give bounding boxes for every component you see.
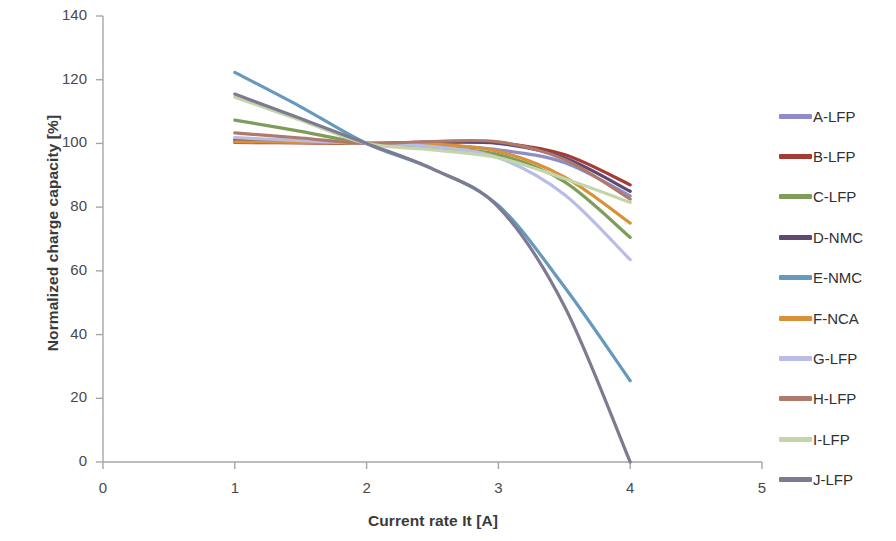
axis-lines [103, 16, 762, 462]
y-tick-label: 0 [47, 452, 87, 469]
legend-swatch-icon [779, 114, 812, 119]
tick-marks [96, 16, 762, 469]
legend-swatch-icon [779, 194, 812, 199]
legend-swatch-icon [779, 356, 812, 361]
legend-swatch-icon [779, 477, 812, 482]
legend-label: I-LFP [813, 431, 850, 448]
y-tick-label: 80 [47, 197, 87, 214]
legend-item-g-lfp[interactable]: G-LFP [779, 338, 896, 378]
legend-item-c-lfp[interactable]: C-LFP [779, 177, 896, 217]
x-tick-label: 5 [747, 479, 777, 496]
legend-swatch-icon [779, 316, 812, 321]
plot-area [0, 0, 896, 541]
series-line-f-nca [235, 142, 630, 223]
legend-label: G-LFP [813, 350, 857, 367]
chart-legend: A-LFPB-LFPC-LFPD-NMCE-NMCF-NCAG-LFPH-LFP… [779, 96, 896, 500]
legend-label: D-NMC [813, 229, 863, 246]
y-tick-label: 120 [47, 70, 87, 87]
x-tick-label: 0 [88, 479, 118, 496]
x-tick-label: 1 [220, 479, 250, 496]
x-tick-label: 3 [483, 479, 513, 496]
line-chart: Normalized charge capacity [%] Current r… [0, 0, 896, 541]
legend-label: A-LFP [813, 108, 856, 125]
legend-swatch-icon [779, 437, 812, 442]
y-tick-label: 100 [47, 133, 87, 150]
legend-item-h-lfp[interactable]: H-LFP [779, 379, 896, 419]
legend-label: C-LFP [813, 188, 856, 205]
y-tick-label: 20 [47, 388, 87, 405]
legend-swatch-icon [779, 154, 812, 159]
legend-item-b-lfp[interactable]: B-LFP [779, 136, 896, 176]
legend-label: B-LFP [813, 148, 856, 165]
y-tick-label: 60 [47, 261, 87, 278]
legend-item-d-nmc[interactable]: D-NMC [779, 217, 896, 257]
legend-label: H-LFP [813, 390, 856, 407]
legend-item-a-lfp[interactable]: A-LFP [779, 96, 896, 136]
legend-item-e-nmc[interactable]: E-NMC [779, 258, 896, 298]
series-lines [235, 72, 630, 462]
legend-swatch-icon [779, 396, 812, 401]
y-tick-label: 40 [47, 325, 87, 342]
legend-label: E-NMC [813, 269, 862, 286]
legend-item-j-lfp[interactable]: J-LFP [779, 460, 896, 500]
legend-item-f-nca[interactable]: F-NCA [779, 298, 896, 338]
legend-swatch-icon [779, 235, 812, 240]
x-tick-label: 4 [615, 479, 645, 496]
legend-label: F-NCA [813, 310, 859, 327]
legend-label: J-LFP [813, 471, 853, 488]
x-tick-label: 2 [352, 479, 382, 496]
legend-swatch-icon [779, 275, 812, 280]
legend-item-i-lfp[interactable]: I-LFP [779, 419, 896, 459]
y-tick-label: 140 [47, 6, 87, 23]
